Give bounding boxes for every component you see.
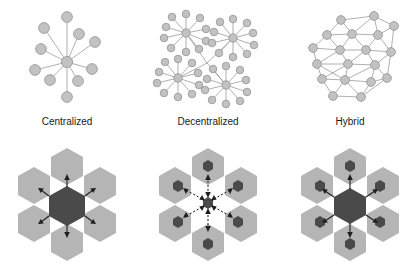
graph-hub-node <box>222 81 230 89</box>
graph-node <box>194 69 202 77</box>
graph-node <box>167 44 175 52</box>
graph-node <box>30 65 41 76</box>
graph-node <box>313 60 322 69</box>
graph-node <box>188 90 196 98</box>
graph-node <box>229 15 237 23</box>
graph-node <box>155 68 163 76</box>
graph-node <box>383 74 392 83</box>
graph-node <box>390 22 399 31</box>
graph-node <box>39 23 50 34</box>
graph-hub-node <box>61 56 72 67</box>
graph-node <box>229 53 237 61</box>
graph-node <box>222 62 230 70</box>
column-label-centralized: Centralized <box>42 116 93 127</box>
graph-hub-node <box>229 34 237 42</box>
graph-node <box>73 76 84 87</box>
graph-node <box>250 41 258 49</box>
graph-node <box>62 92 73 103</box>
graph-node <box>222 100 230 108</box>
graph-node <box>243 19 251 27</box>
graph-node <box>337 16 346 25</box>
graph-node <box>162 23 170 31</box>
graph-node <box>208 39 216 47</box>
graph-node <box>371 61 380 70</box>
graph-node <box>242 76 250 84</box>
graph-node <box>370 12 379 21</box>
graph-node <box>209 65 217 73</box>
graph-node <box>236 97 244 105</box>
graph-node <box>36 44 47 55</box>
graph-node <box>323 31 332 40</box>
graph-node <box>341 76 350 85</box>
graph-node <box>215 49 223 57</box>
graph-hub-node <box>174 74 182 82</box>
graph-node <box>74 29 85 40</box>
graph-node <box>87 64 98 75</box>
graph-node <box>90 37 101 48</box>
graph-node <box>168 13 176 21</box>
graph-node <box>153 79 161 87</box>
graph-node <box>160 89 168 97</box>
graph-node <box>216 18 224 26</box>
graph-node <box>309 44 318 53</box>
graph-node <box>210 28 218 36</box>
graph-node <box>188 59 196 67</box>
graph-node <box>249 29 257 37</box>
graph-node <box>182 48 190 56</box>
graph-node <box>174 55 182 63</box>
graph-node <box>344 60 353 69</box>
graph-node <box>161 58 169 66</box>
graph-node <box>236 66 244 74</box>
graph-node <box>208 96 216 104</box>
column-label-decentralized: Decentralized <box>177 116 238 127</box>
graph-hub-node <box>182 29 190 37</box>
graph-node <box>196 14 204 22</box>
graph-node <box>367 78 376 87</box>
graph-node <box>182 10 190 18</box>
graph-node <box>387 48 396 57</box>
graph-node <box>243 88 251 96</box>
graph-node <box>201 86 209 94</box>
graph-node <box>357 93 366 102</box>
graph-node <box>348 30 357 39</box>
network-topology-figure: Centralized <box>0 0 416 264</box>
graph-node <box>243 50 251 58</box>
graph-node <box>202 25 210 33</box>
graph-node <box>362 46 371 55</box>
graph-node <box>336 46 345 55</box>
graph-node <box>329 92 338 101</box>
graph-node <box>318 75 327 84</box>
graph-node <box>62 12 73 23</box>
graph-node <box>374 31 383 40</box>
graph-node <box>195 45 203 53</box>
graph-node <box>174 93 182 101</box>
column-label-hybrid: Hybrid <box>336 116 365 127</box>
graph-node <box>203 75 211 83</box>
graph-node <box>45 75 56 86</box>
graph-node <box>160 34 168 42</box>
